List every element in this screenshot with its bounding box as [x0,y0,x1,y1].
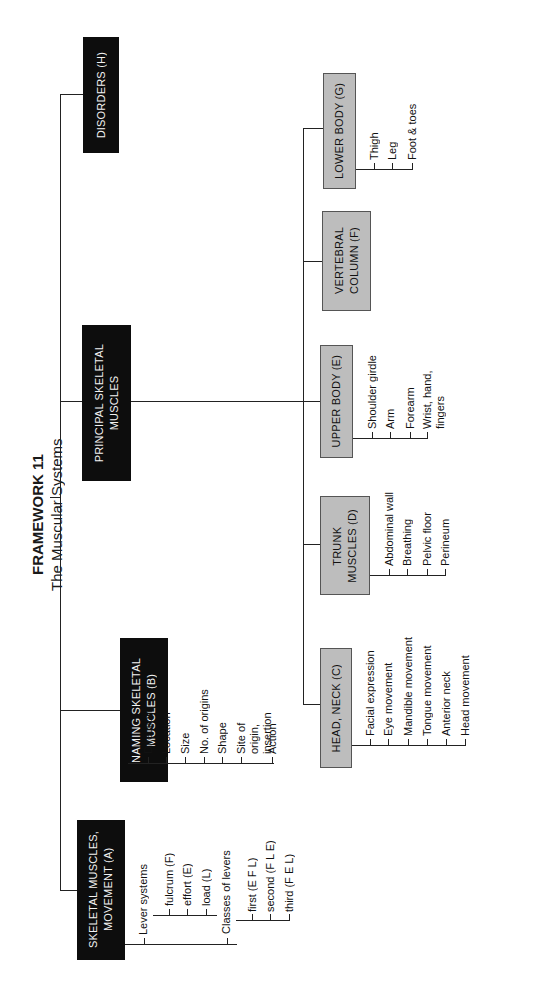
main-spine [60,94,61,891]
box-lower-body: LOWER BODY (G) [323,73,356,189]
tick [427,569,428,575]
tick [252,914,253,920]
upper-shoulder-girdle: Shoulder girdle [366,345,379,429]
lever-effort: effort (E) [181,858,194,906]
box-skeletal-muscles-movement: SKELETAL MUSCLES, MOVEMENT (A) [77,820,125,960]
box-vertebral-column: VERTEBRAL COLUMN (F) [322,211,371,311]
principal-spine [303,128,304,705]
tick [427,739,428,745]
upper-wrist-hand-fingers: Wrist, hand, fingers [421,366,447,429]
box-label: UPPER BODY (E) [329,355,344,447]
tick [445,569,446,575]
naming-location: Location [160,702,173,754]
e-stem [353,438,428,439]
tick [389,569,390,575]
tick [169,909,170,915]
tick [427,432,428,438]
connector-h [60,94,84,95]
connector-d [303,544,320,545]
tick [372,432,373,438]
upper-arm: Arm [384,405,397,429]
connector-c [303,704,320,705]
trunk-perineum: Perineum [439,512,452,566]
tick [446,739,447,745]
connector-a [60,890,78,891]
class-third: third (F E L) [283,828,296,912]
lever-load: load (L) [200,862,213,906]
head-eye-movement: Eye movement [382,656,395,736]
tick [241,757,242,763]
a-classes-of-levers: Classes of levers [220,838,233,934]
tick [187,909,188,915]
classes-stem [236,920,290,921]
box-label: HEAD, NECK (C) [329,664,344,752]
tick [465,739,466,745]
head-facial-expression: Facial expression [364,636,377,736]
box-disorders: DISORDERS (H) [83,37,119,153]
upper-forearm: Forearm [404,382,417,429]
lower-foot-toes: Foot & toes [406,96,419,160]
tick [206,909,207,915]
tick [289,914,290,920]
tick [370,739,371,745]
head-head-movement: Head movement [459,640,472,736]
tick [392,163,393,169]
tick [204,757,205,763]
connector-e [303,401,321,402]
lever-fulcrum: fulcrum (F) [163,848,176,906]
tick [390,432,391,438]
b-stem [168,763,274,764]
connector-g [303,128,323,129]
trunk-pelvic-floor: Pelvic floor [421,505,434,566]
tick [222,757,223,763]
box-label: PRINCIPAL SKELETAL MUSCLES [92,344,122,462]
box-upper-body: UPPER BODY (E) [320,345,353,458]
lower-thigh: Thigh [368,126,381,160]
box-head-neck: HEAD, NECK (C) [320,648,352,768]
class-first: first (E F L) [246,846,259,912]
d-stem [370,575,446,576]
naming-shape: Shape [216,714,229,754]
box-label: VERTEBRAL COLUMN (F) [332,227,362,294]
g-stem [356,169,413,170]
head-anterior-neck: Anterior neck [440,656,453,736]
head-mandible-movement: Mandible movement [402,624,415,736]
naming-direction: Direction [142,698,155,754]
tick [272,757,273,763]
a-stem [125,944,237,945]
lower-leg: Leg [386,136,399,160]
box-label: SKELETAL MUSCLES, MOVEMENT (A) [86,831,116,948]
tick [407,569,408,575]
tick [410,432,411,438]
trunk-breathing: Breathing [401,515,414,566]
naming-action: Action [266,714,279,754]
tick [388,739,389,745]
tick [227,938,228,944]
box-label: LOWER BODY (G) [332,83,347,179]
naming-size: Size [179,724,192,754]
b-stem-left [128,763,174,764]
c-stem [352,745,466,746]
tick [408,739,409,745]
lever-stem [153,915,217,916]
tick [144,938,145,944]
box-label: TRUNK MUSCLES (D) [330,509,360,583]
connector-f [303,261,322,262]
trunk-abdominal-wall: Abdominal wall [383,482,396,566]
tick [270,914,271,920]
a-lever-systems: Lever systems [137,855,150,935]
head-tongue-movement: Tongue movement [421,630,434,736]
naming-no-of-origins: No. of origins [198,680,211,754]
connector-principal [60,401,83,402]
tick [185,757,186,763]
title-framework: FRAMEWORK 11 [28,430,47,600]
box-label: DISORDERS (H) [94,52,109,138]
connector-b [60,710,121,711]
principal-connector [131,401,304,402]
class-second: second (F L E) [264,826,277,912]
title-subtitle: The Muscular Systems [47,430,66,600]
tick [412,163,413,169]
box-trunk-muscles: TRUNK MUSCLES (D) [320,496,370,595]
tick [374,163,375,169]
box-principal-skeletal-muscles: PRINCIPAL SKELETAL MUSCLES [82,325,131,481]
